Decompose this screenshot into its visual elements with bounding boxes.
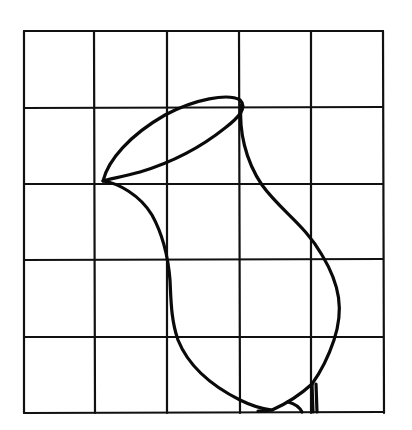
vase-foot-arc	[288, 402, 302, 412]
vase-figure	[103, 97, 339, 412]
vase-body-left	[103, 181, 272, 410]
grid-vertical-line	[94, 31, 95, 413]
vase-rim-ellipse	[103, 97, 243, 181]
drawing-grid	[24, 31, 384, 413]
vase-body-right	[241, 105, 340, 384]
vase-foot-stem-inner	[316, 384, 317, 412]
grid-drawing	[0, 0, 412, 430]
vase-foot-stem	[312, 384, 313, 412]
vase-bottom	[258, 384, 312, 411]
grid-vertical-line	[383, 31, 384, 413]
grid-horizontal-line	[24, 107, 383, 108]
grid-vertical-line	[239, 31, 240, 413]
grid-horizontal-line	[24, 259, 383, 260]
grid-horizontal-line	[24, 412, 383, 413]
